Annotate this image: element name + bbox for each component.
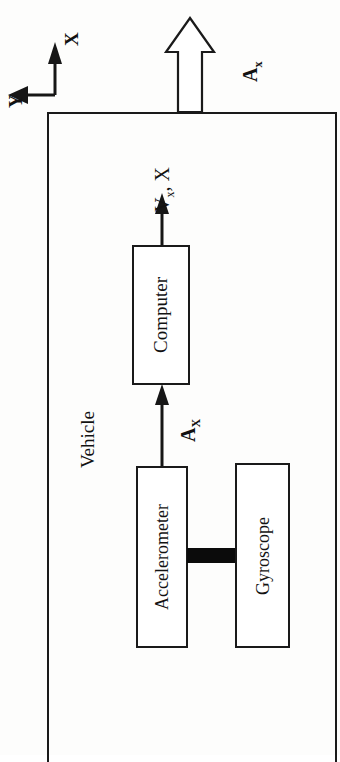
computer-box[interactable]: Computer: [132, 245, 190, 385]
computer-box-label-text: Computer: [150, 277, 171, 353]
computer-box-label: Computer: [150, 277, 172, 353]
accelerometer-box-label-text: Accelerometer: [152, 504, 172, 610]
output-signal-label-text: V: [151, 198, 173, 212]
output-signal-subscript: x: [163, 192, 177, 198]
external-acceleration-label: Ax: [240, 62, 264, 82]
internal-signal-label-text: A: [177, 428, 199, 442]
external-acceleration-label-text: A: [239, 68, 261, 82]
gyroscope-box-label: Gyroscope: [252, 517, 273, 595]
axis-label-x-text: X: [61, 32, 82, 46]
gyroscope-box[interactable]: Gyroscope: [235, 463, 290, 648]
sensor-link-connector: [187, 548, 237, 563]
axis-label-y-text: Y: [5, 94, 26, 108]
internal-signal-label: AX: [178, 419, 202, 442]
accelerometer-box-label: Accelerometer: [152, 504, 173, 610]
vehicle-label: Vehicle: [78, 411, 97, 468]
external-acceleration-subscript: x: [251, 62, 265, 68]
accelerometer-box[interactable]: Accelerometer: [136, 466, 188, 648]
internal-signal-subscript: X: [189, 419, 203, 428]
vehicle-label-text: Vehicle: [77, 411, 98, 468]
axis-label-x: X: [62, 32, 81, 46]
output-signal-label: Vx, X: [152, 167, 176, 212]
axis-label-y: Y: [6, 94, 25, 108]
output-signal-suffix: , X: [151, 167, 173, 191]
gyroscope-box-label-text: Gyroscope: [252, 517, 272, 595]
